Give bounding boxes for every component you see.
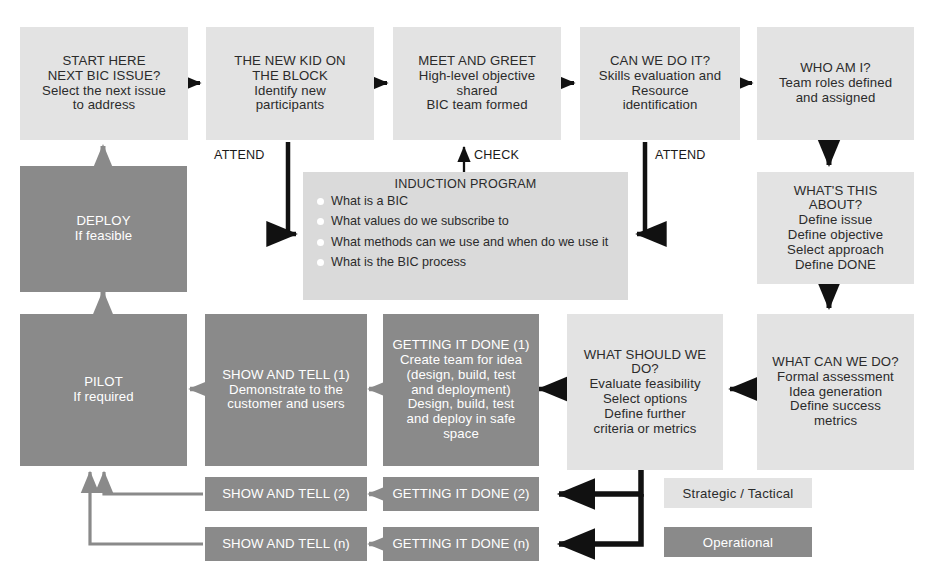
edge-label-attend-left: ATTEND: [214, 148, 265, 162]
induction-item: What methods can we use and when do we u…: [331, 235, 622, 249]
node-getting-it-done-1-line-4: and deployment): [387, 383, 535, 398]
node-new-kid-line-2: THE BLOCK: [210, 69, 370, 84]
node-who-am-i-line-2: Team roles defined: [761, 76, 910, 91]
node-getting-it-done-1-line-2: Create team for idea: [387, 353, 535, 368]
node-deploy[interactable]: DEPLOY If feasible: [20, 166, 187, 292]
node-what-can-we-do-line-3: Idea generation: [761, 385, 910, 400]
induction-item: What values do we subscribe to: [331, 214, 622, 228]
node-show-and-tell-n[interactable]: SHOW AND TELL (n): [205, 527, 367, 561]
node-start-here-line-2: NEXT BIC ISSUE?: [24, 69, 184, 84]
node-whats-this-about-line-4: Define objective: [761, 228, 910, 243]
node-show-and-tell-1[interactable]: SHOW AND TELL (1) Demonstrate to the cus…: [205, 314, 367, 466]
node-start-here-line-1: START HERE: [24, 54, 184, 69]
node-what-should-we-do-line-4: Select options: [571, 392, 719, 407]
node-getting-it-done-n[interactable]: GETTING IT DONE (n): [383, 527, 539, 561]
legend-label-strategic-tactical: Strategic / Tactical: [683, 486, 794, 501]
node-pilot-line-1: PILOT: [24, 375, 183, 390]
node-start-here[interactable]: START HERE NEXT BIC ISSUE? Select the ne…: [20, 27, 188, 140]
node-new-kid-line-1: THE NEW KID ON: [210, 54, 370, 69]
flowchart-canvas: START HERE NEXT BIC ISSUE? Select the ne…: [0, 0, 931, 579]
node-what-can-we-do-line-1: WHAT CAN WE DO?: [761, 355, 910, 370]
node-can-we-do-it-line-1: CAN WE DO IT?: [584, 54, 736, 69]
node-whats-this-about-line-2: ABOUT?: [761, 198, 910, 213]
edge-label-attend-right: ATTEND: [655, 148, 706, 162]
node-meet-greet-line-3: shared: [397, 84, 557, 99]
node-show-and-tell-2[interactable]: SHOW AND TELL (2): [205, 477, 367, 511]
edge-label-check: CHECK: [474, 148, 519, 162]
node-meet-greet-line-1: MEET AND GREET: [397, 54, 557, 69]
node-induction-program[interactable]: INDUCTION PROGRAM What is a BIC What val…: [303, 172, 628, 300]
arrow-attend-left-to-induction: [288, 142, 296, 234]
node-what-can-we-do[interactable]: WHAT CAN WE DO? Formal assessment Idea g…: [757, 314, 914, 470]
node-who-am-i-line-3: and assigned: [761, 91, 910, 106]
node-whats-this-about[interactable]: WHAT'S THIS ABOUT? Define issue Define o…: [757, 172, 914, 284]
node-whats-this-about-line-5: Select approach: [761, 243, 910, 258]
node-start-here-line-4: to address: [24, 98, 184, 113]
legend-item-operational: Operational: [664, 527, 812, 557]
induction-program-title: INDUCTION PROGRAM: [303, 172, 628, 191]
node-getting-it-done-2-label: GETTING IT DONE (2): [387, 487, 535, 502]
node-new-kid-line-3: Identify new: [210, 84, 370, 99]
node-start-here-line-3: Select the next issue: [24, 84, 184, 99]
node-pilot[interactable]: PILOT If required: [20, 314, 187, 466]
induction-program-list: What is a BIC What values do we subscrib…: [303, 194, 628, 270]
node-what-should-we-do-line-1: WHAT SHOULD WE: [571, 348, 719, 363]
arrow-showandtell2-to-pilot: [104, 472, 203, 494]
arrow-whatshouldwedo-to-gettingitdone2: [559, 470, 641, 494]
node-whats-this-about-line-6: Define DONE: [761, 258, 910, 273]
legend-item-strategic-tactical: Strategic / Tactical: [664, 478, 812, 508]
node-show-and-tell-1-line-3: customer and users: [209, 397, 363, 412]
node-what-should-we-do-line-6: criteria or metrics: [571, 422, 719, 437]
node-what-should-we-do-line-5: Define further: [571, 407, 719, 422]
node-deploy-line-2: If feasible: [24, 229, 183, 244]
node-getting-it-done-1-line-6: and deploy in safe: [387, 412, 535, 427]
node-who-am-i-line-1: WHO AM I?: [761, 61, 910, 76]
induction-item: What is a BIC: [331, 194, 622, 208]
node-show-and-tell-2-label: SHOW AND TELL (2): [209, 487, 363, 502]
arrow-attend-right-to-induction: [637, 142, 645, 234]
node-what-can-we-do-line-4: Define success: [761, 399, 910, 414]
node-show-and-tell-n-label: SHOW AND TELL (n): [209, 537, 363, 552]
induction-item: What is the BIC process: [331, 255, 622, 269]
node-who-am-i[interactable]: WHO AM I? Team roles defined and assigne…: [757, 27, 914, 140]
node-can-we-do-it-line-3: Resource: [584, 84, 736, 99]
node-what-can-we-do-line-2: Formal assessment: [761, 370, 910, 385]
node-what-should-we-do-line-3: Evaluate feasibility: [571, 377, 719, 392]
node-whats-this-about-line-3: Define issue: [761, 213, 910, 228]
node-what-should-we-do-line-2: DO?: [571, 362, 719, 377]
node-can-we-do-it-line-2: Skills evaluation and: [584, 69, 736, 84]
legend-label-operational: Operational: [703, 535, 773, 550]
arrow-showandtelln-to-pilot: [90, 472, 203, 544]
node-getting-it-done-1-line-1: GETTING IT DONE (1): [387, 338, 535, 353]
node-meet-and-greet[interactable]: MEET AND GREET High-level objective shar…: [393, 27, 561, 140]
node-getting-it-done-1-line-7: space: [387, 427, 535, 442]
node-deploy-line-1: DEPLOY: [24, 214, 183, 229]
node-what-should-we-do[interactable]: WHAT SHOULD WE DO? Evaluate feasibility …: [567, 314, 723, 470]
node-show-and-tell-1-line-1: SHOW AND TELL (1): [209, 368, 363, 383]
arrow-whatshouldwedo-to-gettingitdonen: [559, 494, 641, 544]
node-getting-it-done-1-line-5: Design, build, test: [387, 397, 535, 412]
node-what-can-we-do-line-5: metrics: [761, 414, 910, 429]
node-meet-greet-line-2: High-level objective: [397, 69, 557, 84]
node-getting-it-done-1[interactable]: GETTING IT DONE (1) Create team for idea…: [383, 314, 539, 466]
node-show-and-tell-1-line-2: Demonstrate to the: [209, 383, 363, 398]
node-new-kid-line-4: participants: [210, 98, 370, 113]
node-meet-greet-line-4: BIC team formed: [397, 98, 557, 113]
node-getting-it-done-n-label: GETTING IT DONE (n): [387, 537, 535, 552]
node-the-new-kid-on-the-block[interactable]: THE NEW KID ON THE BLOCK Identify new pa…: [206, 27, 374, 140]
node-getting-it-done-1-line-3: (design, build, test: [387, 368, 535, 383]
node-can-we-do-it[interactable]: CAN WE DO IT? Skills evaluation and Reso…: [580, 27, 740, 140]
node-whats-this-about-line-1: WHAT'S THIS: [761, 184, 910, 199]
node-can-we-do-it-line-4: identification: [584, 98, 736, 113]
node-pilot-line-2: If required: [24, 390, 183, 405]
node-getting-it-done-2[interactable]: GETTING IT DONE (2): [383, 477, 539, 511]
